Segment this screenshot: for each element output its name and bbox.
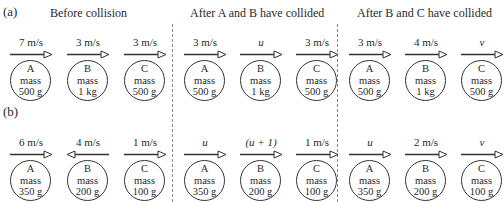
ball-name: B bbox=[68, 63, 107, 75]
ball-b: Bmass200 g bbox=[405, 160, 446, 201]
velocity-indicator: 3 m/s bbox=[347, 36, 393, 59]
ball-name: B bbox=[406, 63, 445, 75]
ball-name: B bbox=[68, 163, 107, 175]
velocity-label: 3 m/s bbox=[294, 36, 340, 49]
arrow-left-icon bbox=[65, 150, 111, 159]
mass-word: mass bbox=[406, 175, 445, 187]
mass-word: mass bbox=[11, 175, 50, 187]
velocity-label: u bbox=[182, 136, 228, 149]
ball-name: B bbox=[241, 63, 280, 75]
ball-a: Amass350 g bbox=[10, 160, 51, 201]
ball-c: Cmass100 g bbox=[296, 160, 337, 201]
mass-value: 350 g bbox=[185, 186, 224, 198]
ball-name: A bbox=[11, 163, 50, 175]
ball-name: C bbox=[297, 163, 336, 175]
ball-b: Bmass1 kg bbox=[405, 60, 446, 101]
ball-name: C bbox=[462, 63, 501, 75]
velocity-indicator: u bbox=[182, 136, 228, 159]
part-a-label: (a) bbox=[3, 4, 17, 20]
mass-word: mass bbox=[11, 75, 50, 87]
velocity-indicator: 6 m/s bbox=[8, 136, 54, 159]
ball-a: Amass500 g bbox=[349, 60, 390, 101]
mass-value: 500 g bbox=[297, 86, 336, 98]
ball-a: Amass350 g bbox=[184, 160, 225, 201]
velocity-label: 3 m/s bbox=[122, 36, 168, 49]
arrow-right-icon bbox=[182, 50, 228, 59]
mass-value: 100 g bbox=[462, 186, 501, 198]
mass-value: 350 g bbox=[11, 186, 50, 198]
ball-c: Cmass100 g bbox=[124, 160, 165, 201]
velocity-indicator: u bbox=[347, 136, 393, 159]
ball-b: Bmass1 kg bbox=[67, 60, 108, 101]
heading-before-collision: Before collision bbox=[50, 6, 127, 21]
ball-name: A bbox=[350, 163, 389, 175]
mass-word: mass bbox=[125, 175, 164, 187]
ball-name: C bbox=[125, 63, 164, 75]
part-b-label: (b) bbox=[3, 104, 18, 120]
velocity-indicator: 3 m/s bbox=[182, 36, 228, 59]
velocity-indicator: 1 m/s bbox=[122, 136, 168, 159]
mass-word: mass bbox=[241, 75, 280, 87]
arrow-right-icon bbox=[459, 150, 504, 159]
ball-a: Amass350 g bbox=[349, 160, 390, 201]
arrow-right-icon bbox=[8, 50, 54, 59]
velocity-label: v bbox=[459, 36, 504, 49]
ball-name: B bbox=[241, 163, 280, 175]
mass-word: mass bbox=[406, 75, 445, 87]
mass-word: mass bbox=[297, 175, 336, 187]
ball-name: B bbox=[406, 163, 445, 175]
arrow-right-icon bbox=[238, 50, 284, 59]
mass-word: mass bbox=[297, 75, 336, 87]
velocity-label: 3 m/s bbox=[347, 36, 393, 49]
mass-value: 1 kg bbox=[241, 86, 280, 98]
mass-word: mass bbox=[462, 175, 501, 187]
ball-name: A bbox=[185, 63, 224, 75]
velocity-indicator: 4 m/s bbox=[65, 136, 111, 159]
velocity-label: 3 m/s bbox=[65, 36, 111, 49]
mass-word: mass bbox=[350, 175, 389, 187]
arrow-right-icon bbox=[459, 50, 504, 59]
arrow-right-icon bbox=[403, 50, 449, 59]
mass-value: 100 g bbox=[125, 186, 164, 198]
ball-b: Bmass200 g bbox=[67, 160, 108, 201]
mass-word: mass bbox=[68, 75, 107, 87]
arrow-right-icon bbox=[403, 150, 449, 159]
velocity-label: 7 m/s bbox=[8, 36, 54, 49]
velocity-label: 6 m/s bbox=[8, 136, 54, 149]
mass-value: 500 g bbox=[462, 86, 501, 98]
velocity-label: 4 m/s bbox=[65, 136, 111, 149]
arrow-right-icon bbox=[8, 150, 54, 159]
ball-a: Amass500 g bbox=[184, 60, 225, 101]
ball-c: Cmass500 g bbox=[461, 60, 502, 101]
velocity-indicator: 2 m/s bbox=[403, 136, 449, 159]
heading-after-ab: After A and B have collided bbox=[190, 6, 324, 21]
velocity-label: u bbox=[347, 136, 393, 149]
arrow-right-icon bbox=[347, 150, 393, 159]
ball-name: A bbox=[11, 63, 50, 75]
arrow-right-icon bbox=[65, 50, 111, 59]
velocity-label: 2 m/s bbox=[403, 136, 449, 149]
mass-word: mass bbox=[185, 175, 224, 187]
mass-value: 1 kg bbox=[68, 86, 107, 98]
ball-b: Bmass200 g bbox=[240, 160, 281, 201]
ball-name: C bbox=[462, 163, 501, 175]
velocity-indicator: u bbox=[238, 36, 284, 59]
velocity-label: v bbox=[459, 136, 504, 149]
velocity-indicator: 7 m/s bbox=[8, 36, 54, 59]
arrow-right-icon bbox=[122, 150, 168, 159]
arrow-right-icon bbox=[347, 50, 393, 59]
velocity-indicator: 4 m/s bbox=[403, 36, 449, 59]
mass-value: 500 g bbox=[125, 86, 164, 98]
mass-word: mass bbox=[185, 75, 224, 87]
velocity-indicator: v bbox=[459, 36, 504, 59]
velocity-indicator: 3 m/s bbox=[294, 36, 340, 59]
ball-c: Cmass100 g bbox=[461, 160, 502, 201]
ball-name: A bbox=[350, 63, 389, 75]
velocity-label: 4 m/s bbox=[403, 36, 449, 49]
mass-value: 200 g bbox=[68, 186, 107, 198]
mass-value: 1 kg bbox=[406, 86, 445, 98]
ball-b: Bmass1 kg bbox=[240, 60, 281, 101]
ball-name: A bbox=[185, 163, 224, 175]
mass-value: 350 g bbox=[350, 186, 389, 198]
velocity-label: 1 m/s bbox=[294, 136, 340, 149]
